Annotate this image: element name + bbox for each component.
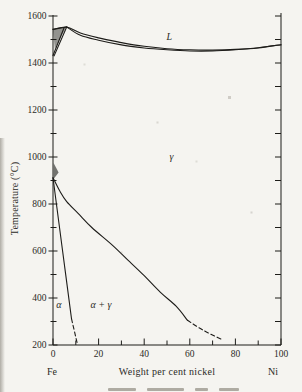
region-label-L: L (165, 31, 172, 42)
y-tick-label: 1400 (28, 58, 47, 68)
y-axis-title: Temperature (°C) (9, 128, 22, 270)
scan-edge-shadow (0, 138, 5, 392)
x-axis-title: Weight per cent nickel (103, 366, 231, 377)
gamma-vertex-ink-blob (54, 163, 59, 179)
x-axis-right-end-label: Ni (268, 366, 278, 377)
x-axis-left-end-label: Fe (47, 366, 57, 377)
y-tick-label: 1600 (28, 11, 47, 21)
x-tick-label: 100 (274, 349, 289, 359)
curve-gamma-alphagamma-boundary (53, 178, 188, 321)
region-label-α+γ: α + γ (90, 299, 112, 310)
curve-solidus (67, 27, 281, 51)
x-tick-label: 20 (94, 349, 104, 359)
x-tick-label: 60 (185, 349, 195, 359)
scan-speckles (0, 0, 1, 1)
x-tick-label: 0 (51, 349, 56, 359)
plot-area: 1600140012001000800600400200020406080100… (0, 0, 302, 392)
y-tick-label: 400 (32, 293, 47, 303)
clipped-caption-remnant (108, 388, 239, 391)
delta-region-wedge (53, 27, 67, 50)
y-tick-label: 600 (32, 246, 47, 256)
region-label-γ: γ (170, 151, 175, 162)
curve-alpha-alphagamma-extrapolated (72, 319, 78, 345)
y-tick-label: 800 (32, 199, 47, 209)
x-tick-label: 80 (231, 349, 241, 359)
y-tick-label: 1200 (28, 105, 47, 115)
region-label-α: α (56, 299, 62, 310)
y-tick-label: 200 (32, 340, 47, 350)
x-tick-label: 40 (139, 349, 149, 359)
curve-gamma-alphagamma-extrapolated (188, 320, 222, 339)
fe-ni-phase-diagram-figure: 1600140012001000800600400200020406080100… (0, 0, 302, 392)
y-tick-label: 1000 (28, 152, 47, 162)
